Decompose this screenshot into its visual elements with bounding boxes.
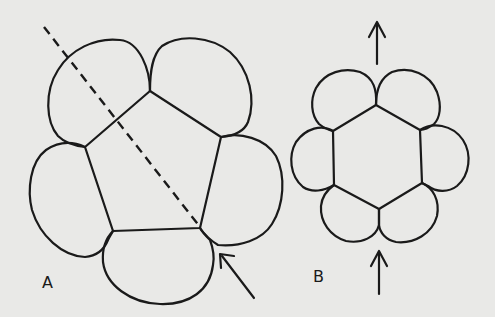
panel-a-label: A (42, 273, 53, 292)
panel-a-cell-top-right (150, 38, 251, 137)
panel-b-cell-left (291, 128, 334, 191)
panel-b-cell-top-right (376, 70, 440, 130)
figure: A (0, 0, 495, 317)
panel-a-cell-left (30, 143, 113, 257)
diagram-canvas: A (0, 0, 495, 317)
panel-b: B (291, 22, 468, 294)
panel-b-central-cell (333, 105, 422, 209)
panel-a-cell-bottom (103, 228, 214, 304)
panel-a-cell-top-left (48, 40, 150, 147)
panel-b-arrow-up-icon (369, 22, 385, 64)
panel-b-cell-top-left (312, 70, 376, 131)
panel-b-arrow-bottom-icon (371, 251, 387, 294)
panel-b-cell-right (420, 125, 469, 190)
panel-b-label: B (313, 267, 324, 286)
panel-a-cell-right (200, 135, 282, 245)
panel-a-arrow-icon (220, 254, 254, 298)
panel-a-central-cell (85, 91, 221, 231)
panel-a: A (30, 27, 283, 304)
panel-a-cleavage-line (44, 27, 200, 227)
